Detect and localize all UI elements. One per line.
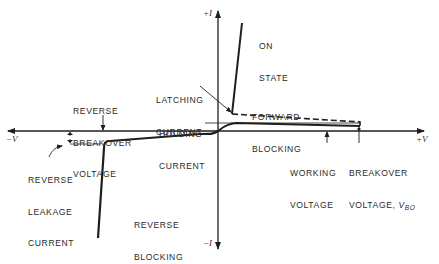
on-state-curve [232, 23, 242, 114]
axis-label-plus-v: +V [416, 134, 428, 144]
label-line: BREAKOVER [349, 168, 415, 179]
label-reverse-breakover-voltage: REVERSE BREAKOVER VOLTAGE [73, 85, 132, 201]
label-line: REVERSE [28, 175, 74, 186]
label-reverse-blocking: REVERSE BLOCKING [134, 199, 183, 264]
label-text: VOLTAGE, [349, 200, 399, 210]
label-line: STATE [259, 73, 288, 84]
label-working-voltage: WORKING VOLTAGE [290, 147, 336, 231]
vbo-subscript: BO [405, 204, 416, 211]
label-reverse-leakage-current: REVERSE LEAKAGE CURRENT [28, 154, 74, 264]
label-holding-current: HOLDING CURRENT [159, 108, 205, 192]
axis-label-plus-i: +I [203, 8, 212, 18]
label-line: VOLTAGE [73, 169, 132, 180]
label-line: CURRENT [28, 238, 74, 249]
label-line: WORKING [290, 168, 336, 179]
label-line: BLOCKING [134, 252, 183, 263]
label-line: LEAKAGE [28, 207, 74, 218]
label-line: REVERSE [134, 220, 183, 231]
label-line: BREAKOVER [73, 138, 132, 149]
axis-label-minus-i: −I [203, 238, 212, 248]
breakover-voltage-pointer [357, 125, 360, 143]
label-line: CURRENT [159, 161, 205, 172]
label-line: HOLDING [159, 129, 205, 140]
label-line: VOLTAGE, VBO [349, 200, 415, 214]
label-line: VOLTAGE [290, 200, 336, 211]
label-line: FORWARD [252, 112, 301, 123]
label-line: ON [259, 41, 288, 52]
label-breakover-voltage: BREAKOVER VOLTAGE, VBO [349, 147, 415, 234]
label-line: REVERSE [73, 106, 132, 117]
axis-label-minus-v: −V [6, 134, 18, 144]
label-line: LATCHING [156, 95, 204, 106]
